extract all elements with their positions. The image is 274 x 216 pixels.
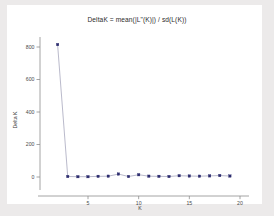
data-point [107, 175, 110, 178]
y-tick-label: 600 [26, 76, 35, 82]
data-point [137, 173, 140, 176]
data-point [218, 174, 221, 177]
y-tick-label: 0 [32, 174, 35, 180]
y-tick-label: 200 [26, 141, 35, 147]
x-tick-label: 20 [237, 200, 243, 206]
data-point [148, 175, 151, 178]
data-point [117, 173, 120, 176]
chart-figure: DeltaK = mean(|L"(K)|) / sd(L(K)) 020040… [0, 0, 274, 216]
data-point [127, 175, 130, 178]
x-axis: 5101520 [38, 196, 249, 206]
series-polyline [58, 45, 230, 177]
data-point [66, 175, 69, 178]
data-series [56, 43, 231, 178]
y-tick-label: 400 [26, 109, 35, 115]
data-point [208, 175, 211, 178]
data-point [229, 175, 232, 178]
chart-svg: 0200400600800 5101520 Delta K K [0, 0, 274, 216]
data-point [178, 174, 181, 177]
data-point [168, 175, 171, 178]
data-point [56, 43, 59, 46]
y-axis: 0200400600800 [26, 37, 40, 190]
data-point [87, 175, 90, 178]
x-tick-label: 15 [186, 200, 192, 206]
x-axis-title: K [138, 205, 142, 211]
data-point [158, 175, 161, 178]
data-point [97, 175, 100, 178]
data-point [188, 175, 191, 178]
data-point [198, 175, 201, 178]
y-axis-title: Delta K [12, 111, 18, 129]
y-tick-label: 800 [26, 44, 35, 50]
plot-area: 0200400600800 5101520 Delta K K [0, 0, 274, 216]
x-tick-label: 5 [87, 200, 90, 206]
data-point [77, 175, 80, 178]
